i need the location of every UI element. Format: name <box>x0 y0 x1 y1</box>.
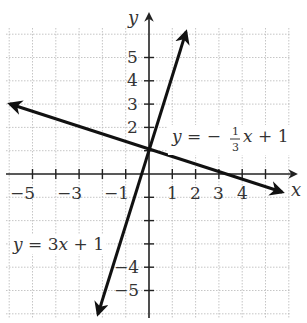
y-tick-label: 2 <box>127 117 138 137</box>
x-tick-label: 1 <box>167 183 178 203</box>
svg-text:y = −: y = − <box>171 126 221 146</box>
y-tick-label: 4 <box>127 70 138 90</box>
x-tick-label: 4 <box>237 183 248 203</box>
x-axis-label: x <box>291 179 301 200</box>
x-tick-label: −5 <box>10 183 35 203</box>
coordinate-graph: −5 −3 −1 1 2 3 4 5 4 3 2 −4 −5 y x y = −… <box>0 0 307 323</box>
svg-text:y = 3x + 1: y = 3x + 1 <box>12 234 104 254</box>
y-axis-label: y <box>127 7 139 28</box>
x-tick-label: 3 <box>213 183 224 203</box>
x-tick-label: −1 <box>104 183 129 203</box>
svg-text:3: 3 <box>232 141 239 154</box>
x-tick-labels: −5 −3 −1 1 2 3 4 <box>10 183 248 203</box>
x-tick-label: −3 <box>57 183 82 203</box>
svg-text:x + 1: x + 1 <box>243 126 288 146</box>
y-tick-label: 3 <box>127 94 138 114</box>
grid <box>6 28 290 318</box>
equation-label-3x: y = 3x + 1 <box>10 234 106 254</box>
equation-label-neg-third: y = − 1 3 x + 1 <box>168 125 294 155</box>
y-tick-label: 5 <box>127 47 138 67</box>
svg-text:1: 1 <box>232 125 239 138</box>
y-tick-label: −4 <box>114 257 139 277</box>
y-tick-label: −5 <box>114 280 139 300</box>
x-tick-label: 2 <box>190 183 201 203</box>
